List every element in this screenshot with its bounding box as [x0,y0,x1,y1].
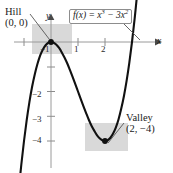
hill-annotation: Hill (0, 0) [5,6,28,29]
y-axis-label: y [46,11,50,21]
x-tick-label-1: 1 [74,45,79,55]
formula-term2-exponent: 2 [125,8,128,15]
valley-annotation-coords: (2, −4) [126,123,155,134]
hill-annotation-coords: (0, 0) [5,17,28,28]
hill-highlight-rect [32,24,72,54]
y-tick-label--3: −3 [32,115,42,125]
x-tick-label--1: −1 [40,45,50,55]
y-tick-label--4: −4 [32,136,42,146]
hill-annotation-name: Hill [5,6,28,17]
x-axis-label: x [157,36,161,46]
x-tick-label-2: 2 [101,45,106,55]
formula-lhs: f(x) = [73,10,97,20]
valley-point-marker [102,138,108,144]
valley-annotation-name: Valley [126,112,155,123]
y-tick-label--2: −2 [32,90,42,100]
function-formula-box: f(x) = x3 − 3x2 [69,9,132,24]
valley-annotation: Valley (2, −4) [126,112,155,135]
cubic-function-figure: Hill (0, 0) Valley (2, −4) f(x) = x3 − 3… [0,0,173,173]
formula-operator: − 3 [105,10,121,20]
